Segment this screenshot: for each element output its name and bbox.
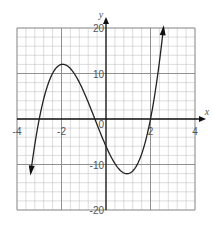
y-tick-label: 20 (93, 23, 105, 34)
y-tick-label: -10 (90, 160, 105, 171)
y-tick-label: 10 (93, 69, 105, 80)
x-tick-label: 4 (192, 126, 198, 137)
x-axis-label: x (204, 106, 210, 117)
tick-labels: xy0-4-2242010-10-20 (13, 9, 210, 216)
x-tick-label: -4 (13, 126, 22, 137)
x-tick-label: -2 (57, 126, 66, 137)
y-tick-label: -20 (90, 205, 105, 216)
origin-label: 0 (98, 119, 104, 130)
y-axis-label: y (98, 9, 104, 20)
cubic-graph: xy0-4-2242010-10-20 (0, 0, 213, 229)
